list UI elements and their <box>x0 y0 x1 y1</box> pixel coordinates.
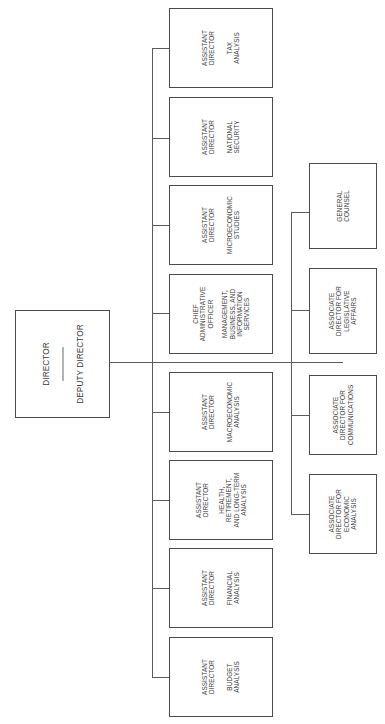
org-box-general-counsel: GENERAL COUNSEL <box>309 163 377 249</box>
connector-ad-7 <box>152 677 169 678</box>
connector-ad-spine <box>152 48 153 678</box>
connector-assoc-1 <box>291 310 309 311</box>
office-label: GENERAL COUNSEL <box>336 190 351 222</box>
role-label: ASSISTANT DIRECTOR <box>201 570 216 606</box>
connector-assoc-2 <box>291 415 309 416</box>
connector-director-trunk <box>110 362 343 363</box>
unit-label: HEALTH, RETIREMENT, AND LONG-TERM ANALYS… <box>218 473 248 528</box>
connector-assoc-0 <box>291 212 309 213</box>
org-box-microeconomic-studies: ASSISTANT DIRECTOR MICROECONOMIC STUDIES <box>169 185 273 265</box>
unit-label: NATIONAL SECURITY <box>226 120 241 153</box>
role-label: ASSISTANT DIRECTOR <box>195 482 210 518</box>
connector-assoc-3 <box>291 514 309 515</box>
role-label: CHIEF ADMINISTRATIVE OFFICER <box>192 287 214 342</box>
unit-label: MACROECONOMIC ANALYSIS <box>226 382 241 442</box>
unit-label: MICROECONOMIC STUDIES <box>226 196 241 254</box>
unit-label: FINANCIAL ANALYSIS <box>226 571 241 605</box>
role-label: ASSISTANT DIRECTOR <box>201 30 216 66</box>
role-label: ASSISTANT DIRECTOR <box>201 659 216 695</box>
connector-ad-0 <box>152 48 169 49</box>
org-box-budget-analysis: ASSISTANT DIRECTOR BUDGET ANALYSIS <box>169 637 273 717</box>
connector-ad-3 <box>152 313 169 314</box>
org-box-tax-analysis: ASSISTANT DIRECTOR TAX ANALYSIS <box>169 8 273 88</box>
org-box-communications: ASSOCIATE DIRECTOR FOR COMMUNICATIONS <box>309 375 377 455</box>
unit-label: TAX ANALYSIS <box>226 32 241 64</box>
role-label: ASSISTANT DIRECTOR <box>201 207 216 243</box>
director-box: DIRECTOR DEPUTY DIRECTOR <box>15 310 110 418</box>
role-label: ASSISTANT DIRECTOR <box>201 394 216 430</box>
connector-ad-6 <box>152 588 169 589</box>
org-box-health-retirement-longterm: ASSISTANT DIRECTOR HEALTH, RETIREMENT, A… <box>169 460 273 540</box>
org-box-national-security: ASSISTANT DIRECTOR NATIONAL SECURITY <box>169 97 273 177</box>
connector-assoc-trunk <box>273 362 291 363</box>
org-box-management-business-information: CHIEF ADMINISTRATIVE OFFICER MANAGEMENT,… <box>169 274 273 354</box>
office-label: ASSOCIATE DIRECTOR FOR ECONOMIC ANALYSIS <box>328 489 358 539</box>
org-box-legislative-affairs: ASSOCIATE DIRECTOR FOR LEGISLATIVE AFFAI… <box>309 268 377 354</box>
org-box-financial-analysis: ASSISTANT DIRECTOR FINANCIAL ANALYSIS <box>169 548 273 628</box>
unit-label: BUDGET ANALYSIS <box>226 661 241 693</box>
director-title: DIRECTOR <box>41 342 50 385</box>
unit-label: MANAGEMENT, BUSINESS, AND INFORMATION SE… <box>221 289 251 339</box>
role-label: ASSISTANT DIRECTOR <box>201 119 216 155</box>
org-box-macroeconomic-analysis: ASSISTANT DIRECTOR MACROECONOMIC ANALYSI… <box>169 372 273 452</box>
office-label: ASSOCIATE DIRECTOR FOR COMMUNICATIONS <box>332 385 354 446</box>
connector-ad-1 <box>152 138 169 139</box>
title-divider <box>62 347 63 381</box>
connector-ad-4 <box>152 412 169 413</box>
org-box-economic-analysis: ASSOCIATE DIRECTOR FOR ECONOMIC ANALYSIS <box>309 474 377 554</box>
connector-ad-5 <box>152 500 169 501</box>
connector-ad-2 <box>152 225 169 226</box>
deputy-director-title: DEPUTY DIRECTOR <box>75 324 84 403</box>
office-label: ASSOCIATE DIRECTOR FOR LEGISLATIVE AFFAI… <box>328 286 358 336</box>
connector-assoc-spine <box>291 212 292 515</box>
